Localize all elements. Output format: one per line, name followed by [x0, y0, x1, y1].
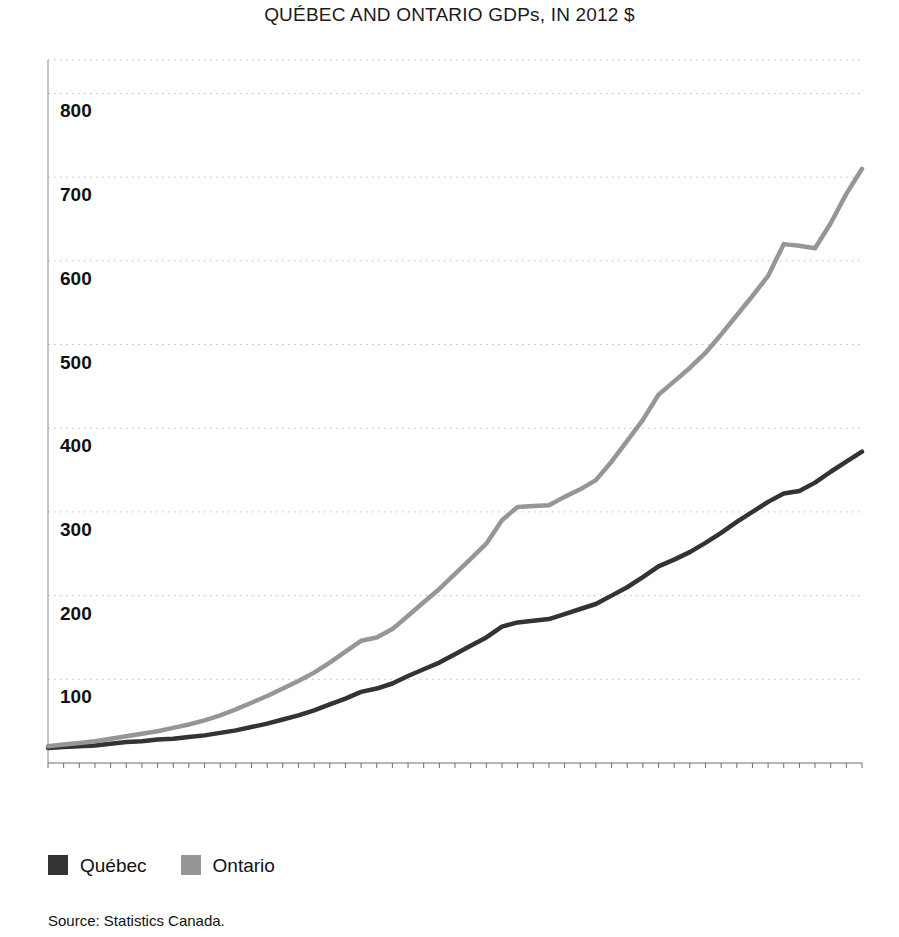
data-series-lines [48, 169, 862, 748]
gdp-line-chart: QUÉBEC AND ONTARIO GDPs, IN 2012 $ 10020… [0, 0, 899, 937]
plot-area: 100200300400500600700800 196119661971197… [0, 58, 899, 768]
source-note: Source: Statistics Canada. [48, 912, 225, 929]
y-tick-label: 100 [60, 686, 92, 707]
y-tick-label: 200 [60, 603, 92, 624]
axis-lines [48, 60, 862, 763]
series-line-qubec [48, 452, 862, 748]
y-axis-tick-labels: 100200300400500600700800 [60, 100, 92, 707]
legend-item-ontario[interactable]: Ontario [181, 855, 275, 875]
y-tick-label: 800 [60, 100, 92, 121]
chart-legend: Québec Ontario [48, 855, 275, 875]
legend-item-quebec[interactable]: Québec [48, 855, 147, 875]
legend-label-quebec: Québec [80, 856, 147, 875]
series-line-ontario [48, 169, 862, 746]
x-axis-ticks [48, 763, 862, 768]
legend-swatch-quebec [48, 855, 68, 875]
gridlines [48, 60, 862, 679]
y-tick-label: 500 [60, 352, 92, 373]
legend-swatch-ontario [181, 855, 201, 875]
y-tick-label: 400 [60, 435, 92, 456]
y-tick-label: 300 [60, 519, 92, 540]
plot-svg: 100200300400500600700800 196119661971197… [0, 58, 899, 768]
y-tick-label: 600 [60, 268, 92, 289]
chart-title: QUÉBEC AND ONTARIO GDPs, IN 2012 $ [0, 4, 899, 26]
legend-label-ontario: Ontario [213, 856, 275, 875]
y-tick-label: 700 [60, 184, 92, 205]
